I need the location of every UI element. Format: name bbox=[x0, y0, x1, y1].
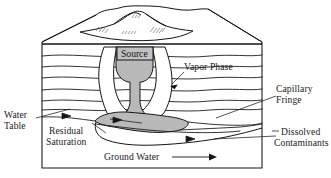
water-table-line-right bbox=[188, 122, 262, 125]
label-dissolved-contaminants-line1: Dissolved bbox=[281, 126, 320, 137]
dissolved-plume-arrowhead bbox=[186, 136, 195, 142]
mound-hatch-center bbox=[122, 31, 136, 34]
diagram-figure: Source Vapor Phase Capillary Fringe Wate… bbox=[0, 0, 331, 178]
diagram-canvas: Source Vapor Phase Capillary Fringe Wate… bbox=[0, 0, 331, 178]
label-source: Source bbox=[121, 48, 148, 59]
stratum-line bbox=[42, 89, 262, 91]
label-water-table-line1: Water bbox=[4, 109, 28, 120]
surface-mound bbox=[80, 11, 193, 40]
mound-hatch-right bbox=[150, 27, 165, 33]
flow-arrow-head bbox=[209, 154, 217, 161]
label-capillary-fringe-line1: Capillary bbox=[276, 83, 313, 94]
label-residual-saturation-line2: Saturation bbox=[46, 136, 87, 147]
label-capillary-fringe-line2: Fringe bbox=[276, 94, 302, 105]
label-water-table-line2: Table bbox=[4, 120, 26, 131]
label-residual-saturation-line1: Residual bbox=[49, 125, 84, 136]
label-dissolved-contaminants-line2: Contaminants bbox=[274, 137, 329, 148]
stratum-line bbox=[42, 77, 262, 79]
mound-hatch-peak bbox=[132, 15, 140, 18]
label-ground-water: Ground Water bbox=[104, 151, 160, 162]
water-table-line bbox=[42, 117, 95, 121]
leader-capillary-fringe bbox=[216, 96, 276, 118]
surface-right-edge bbox=[208, 9, 262, 42]
label-vapor-phase: Vapor Phase bbox=[184, 61, 233, 72]
ground-surface-outline bbox=[42, 6, 262, 44]
leader-vapor-phase bbox=[172, 72, 184, 84]
groundwater-flow-arrow bbox=[172, 154, 217, 161]
ground-surface-face bbox=[42, 6, 262, 44]
surface-left-edge bbox=[42, 15, 96, 42]
mound-ridge-right bbox=[146, 14, 166, 26]
